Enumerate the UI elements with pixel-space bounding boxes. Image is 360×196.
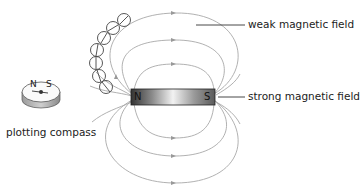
magnet-south-label: S [204, 92, 210, 102]
compass-caption: plotting compass [6, 127, 96, 138]
bar-magnet [131, 89, 215, 105]
plotting-compass [22, 82, 60, 108]
magnet-north-label: N [134, 92, 141, 102]
weak-field-label: weak magnetic field [248, 19, 354, 30]
strong-field-label: strong magnetic field [248, 91, 360, 102]
compass-north-label: N [30, 80, 37, 89]
compass-south-label: S [46, 80, 52, 89]
field-lines-bottom [92, 100, 240, 183]
